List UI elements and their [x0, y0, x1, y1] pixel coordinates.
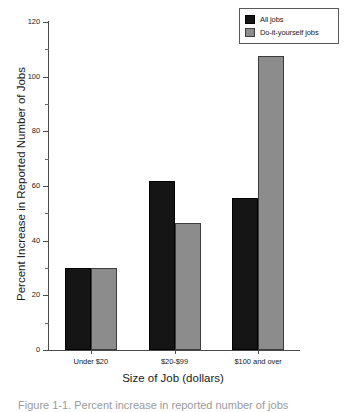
y-tick-label-wrap: 80: [12, 127, 40, 135]
bar: [149, 181, 175, 350]
bar: [232, 198, 258, 350]
legend-swatch-icon: [245, 28, 255, 37]
y-tick-label-wrap: 40: [12, 237, 40, 245]
y-tick-major: [43, 350, 49, 351]
y-tick-label: 100: [14, 73, 40, 81]
x-tick: [258, 350, 259, 354]
y-tick-label: 40: [14, 237, 40, 245]
y-tick-label: 120: [14, 18, 40, 26]
legend-item-do-it-yourself-jobs: Do-it-yourself jobs: [245, 26, 333, 39]
y-tick-label: 0: [14, 346, 40, 354]
legend-item-label: All jobs: [260, 15, 283, 24]
x-tick: [175, 350, 176, 354]
bar: [175, 223, 201, 350]
y-tick-label: 60: [14, 182, 40, 190]
y-tick-label-wrap: 60: [12, 182, 40, 190]
plot-area: [49, 22, 300, 350]
legend: All jobs Do-it-yourself jobs: [239, 8, 339, 44]
y-tick-label-wrap: 20: [12, 291, 40, 299]
bar: [65, 268, 91, 350]
figure-caption: Figure 1-1. Percent increase in reported…: [18, 399, 338, 412]
legend-item-label: Do-it-yourself jobs: [260, 28, 319, 37]
y-tick-label: 20: [14, 291, 40, 299]
x-tick-label: $20-$99: [161, 357, 188, 366]
x-axis-title: Size of Job (dollars): [0, 372, 346, 384]
x-tick-label: Under $20: [74, 357, 109, 366]
x-tick-label: $100 and over: [235, 357, 282, 366]
legend-item-all-jobs: All jobs: [245, 13, 333, 26]
y-tick-label-wrap: 120: [12, 18, 40, 26]
bar: [258, 56, 284, 350]
y-tick-label-wrap: 0: [12, 346, 40, 354]
y-tick-label-wrap: 100: [12, 73, 40, 81]
legend-swatch-icon: [245, 15, 255, 24]
x-tick: [91, 350, 92, 354]
bar: [91, 268, 117, 350]
y-tick-label: 80: [14, 127, 40, 135]
